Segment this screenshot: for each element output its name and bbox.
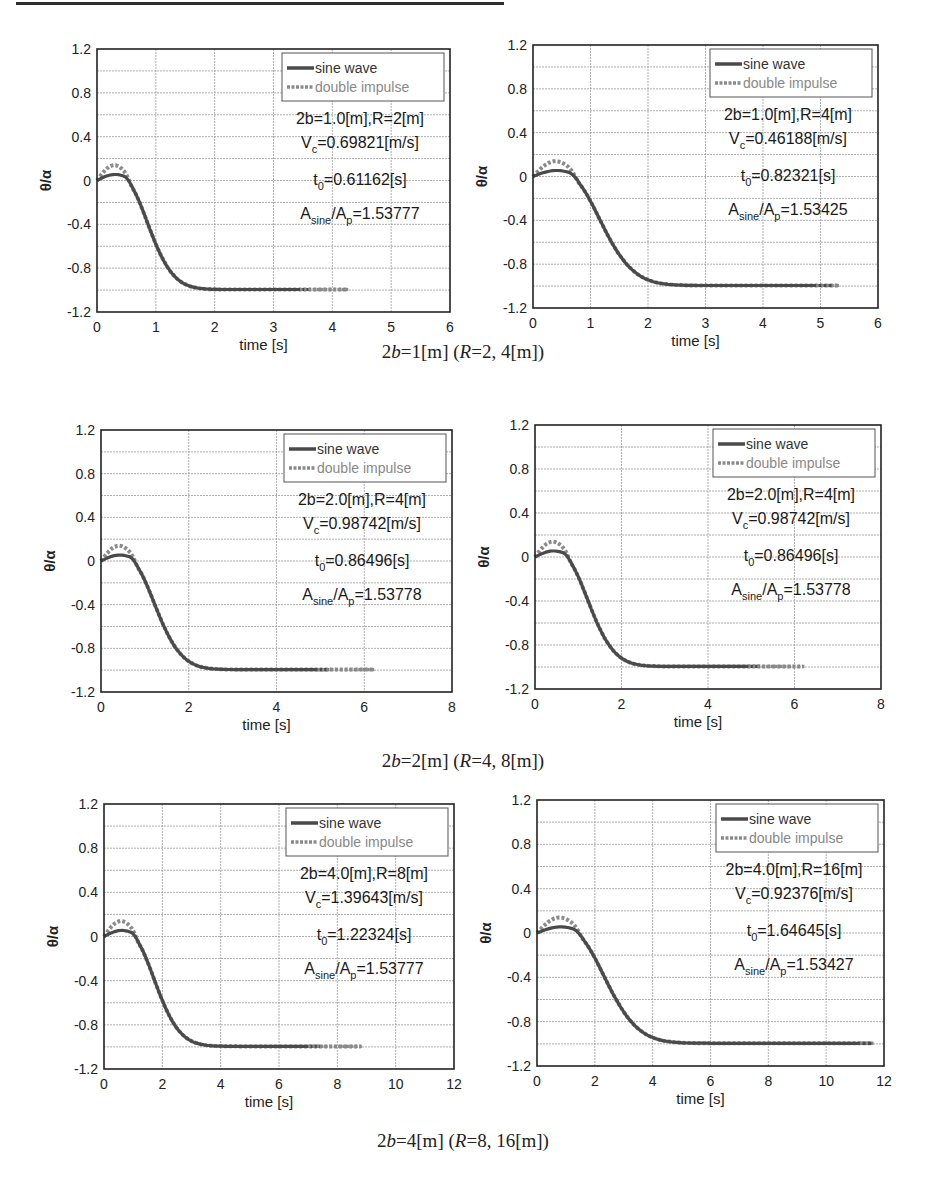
svg-text:6: 6 xyxy=(707,1073,715,1089)
caption-text: =2[m] ( xyxy=(401,750,460,771)
caption-text: 2 xyxy=(382,750,392,771)
x-tick-labels: 024681012 xyxy=(533,1073,892,1089)
svg-text:12: 12 xyxy=(876,1073,892,1089)
caption-var: R xyxy=(455,1130,467,1151)
svg-text:8: 8 xyxy=(764,1073,772,1089)
svg-text:-0.4: -0.4 xyxy=(507,969,531,985)
svg-text:4: 4 xyxy=(649,1073,657,1089)
svg-text:2b=4.0[m],R=16[m]: 2b=4.0[m],R=16[m] xyxy=(726,861,863,878)
caption-text: =2, 4[m]) xyxy=(471,341,544,362)
caption-text: 2 xyxy=(377,1130,387,1151)
caption-var: R xyxy=(460,750,472,771)
caption-text: =4[m] ( xyxy=(396,1130,455,1151)
x-axis-label: time [s] xyxy=(676,1090,724,1107)
legend-label-impulse: double impulse xyxy=(749,830,843,846)
caption-var: b xyxy=(391,341,401,362)
svg-text:0: 0 xyxy=(523,925,531,941)
svg-text:0.4: 0.4 xyxy=(512,881,532,897)
y-axis-label: θ/α xyxy=(477,921,494,943)
caption-row-2: 2b=2[m] (R=4, 8[m]) xyxy=(0,750,926,772)
svg-text:0: 0 xyxy=(533,1073,541,1089)
caption-text: =8, 16[m]) xyxy=(466,1130,548,1151)
svg-text:-1.2: -1.2 xyxy=(507,1058,531,1074)
svg-text:1.2: 1.2 xyxy=(512,792,532,808)
caption-text: 2 xyxy=(382,341,392,362)
y-tick-labels: 1.20.80.40-0.4-0.8-1.2 xyxy=(507,792,531,1074)
caption-var: b xyxy=(387,1130,397,1151)
svg-text:0.8: 0.8 xyxy=(512,836,532,852)
svg-text:-0.8: -0.8 xyxy=(507,1014,531,1030)
chart-svg: 1.20.80.40-0.4-0.8-1.2024681012time [s]θ… xyxy=(0,0,926,1188)
caption-row-1: 2b=1[m] (R=2, 4[m]) xyxy=(0,341,926,363)
svg-text:10: 10 xyxy=(818,1073,834,1089)
legend-label-sine: sine wave xyxy=(749,811,811,827)
chart-plot-3b: 1.20.80.40-0.4-0.8-1.2024681012time [s]θ… xyxy=(0,0,926,1188)
caption-text: =4, 8[m]) xyxy=(471,750,544,771)
caption-row-3: 2b=4[m] (R=8, 16[m]) xyxy=(0,1130,926,1152)
legend: sine wavedouble impulse xyxy=(716,804,878,852)
svg-text:2: 2 xyxy=(591,1073,599,1089)
caption-var: R xyxy=(460,341,472,362)
caption-var: b xyxy=(391,750,401,771)
caption-text: =1[m] ( xyxy=(401,341,460,362)
